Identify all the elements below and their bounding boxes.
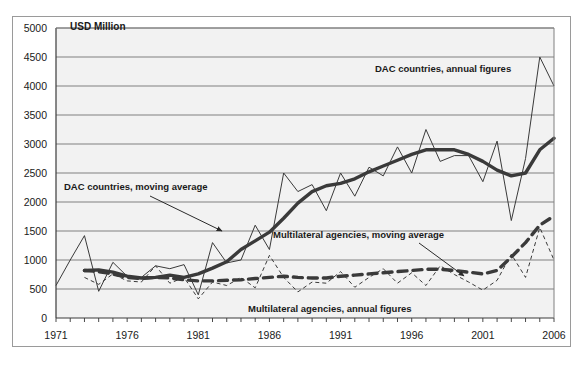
annotation-multilateral-annual: Multilateral agencies, annual figures [248, 303, 412, 314]
y-tick-label: 2000 [24, 196, 48, 208]
y-tick-label: 2500 [24, 167, 48, 179]
x-tick-label: 2006 [542, 329, 566, 341]
y-tick-label: 3000 [24, 138, 48, 150]
annotation-multilateral-moving: Multilateral agencies, moving average [273, 229, 444, 240]
y-tick-label: 3500 [24, 109, 48, 121]
x-tick-label: 1991 [329, 329, 353, 341]
axis-unit-label: USD Million [70, 21, 126, 32]
y-tick-label: 500 [29, 283, 47, 295]
x-tick-label: 1981 [187, 329, 211, 341]
x-tick-label: 1971 [44, 329, 68, 341]
annotation-dac-moving: DAC countries, moving average [64, 181, 208, 192]
y-tick-label: 4500 [24, 51, 48, 63]
annotation-dac-annual: DAC countries, annual figures [375, 63, 511, 74]
x-tick-label: 1986 [258, 329, 282, 341]
y-tick-label: 0 [41, 312, 47, 324]
y-tick-label: 5000 [24, 22, 48, 34]
x-tick-label: 1976 [115, 329, 139, 341]
x-axis-tick-labels: 19711976198119861991199620012006 [44, 329, 566, 341]
chart-canvas: 0500100015002000250030003500400045005000… [0, 0, 585, 365]
y-tick-label: 4000 [24, 80, 48, 92]
y-axis-tick-labels: 0500100015002000250030003500400045005000 [24, 22, 48, 324]
chart-figure: 0500100015002000250030003500400045005000… [0, 0, 585, 365]
x-tick-label: 2001 [471, 329, 495, 341]
y-tick-label: 1000 [24, 254, 48, 266]
y-tick-label: 1500 [24, 225, 48, 237]
x-tick-label: 1996 [400, 329, 424, 341]
